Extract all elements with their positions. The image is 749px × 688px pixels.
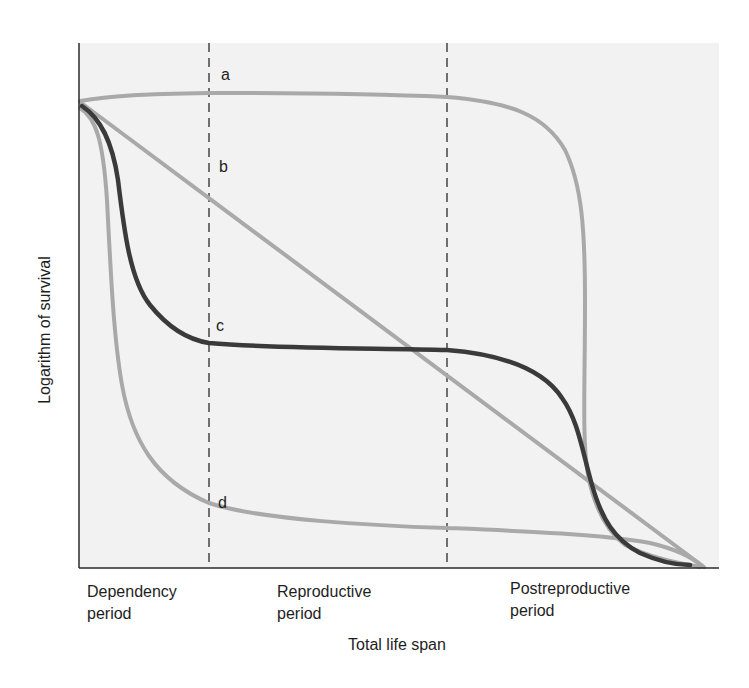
curve-label-a: a [221,66,230,83]
curve-label-c: c [216,317,224,334]
curve-label-b: b [219,158,228,175]
region-reproductive-line2: period [277,605,321,622]
region-reproductive-line1: Reproductive [277,583,371,600]
y-axis-label: Logarithm of survival [36,256,53,404]
curve-label-d: d [218,494,227,511]
x-axis-label: Total life span [348,636,446,653]
region-dependency-line1: Dependency [87,583,177,600]
plot-area [79,43,719,568]
survivorship-chart: a b c d Logarithm of survival Dependency… [0,0,749,688]
region-dependency-line2: period [87,605,131,622]
region-postreproductive-line1: Postreproductive [510,580,630,597]
region-postreproductive-line2: period [510,602,554,619]
